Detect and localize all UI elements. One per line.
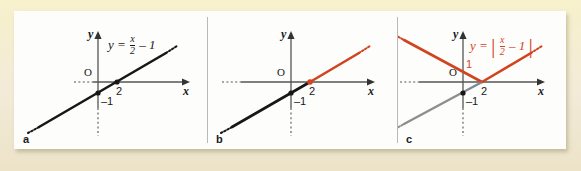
panel-a-graph [14,11,207,149]
point-x-intercept [307,79,313,85]
point-y-intercept-original [460,90,465,95]
line-segment-highlight [310,53,359,82]
point-label-x-intercept: 2 [116,85,122,97]
equation-lhs: y [470,38,476,53]
fraction-denominator: 2 [500,46,505,58]
panel-divider-1 [207,17,208,143]
point-label-y-intercept-original: –1 [466,95,478,107]
equation-lhs: y [108,37,114,52]
y-axis-arrowhead [287,31,294,39]
origin-label: O [449,66,457,78]
panel-a: y x O –1 2 y = x 2 – 1 a [14,11,207,149]
line-faded-dash-lower-left [397,124,404,129]
point-y-intercept [95,90,100,95]
point-x-intercept [114,79,119,84]
panel-b: y x O –1 2 b [207,11,397,149]
y-axis-label: y [453,27,458,42]
equation-tail: – 1 [139,37,155,52]
panel-c-graph [397,11,566,149]
panel-c-svg [397,11,566,149]
equation-tail: – 1 [509,38,525,53]
x-axis-label: x [368,84,374,99]
point-label-abs-y-intercept: 1 [466,58,472,70]
point-label-y-intercept: –1 [294,95,306,107]
fraction-denominator: 2 [130,45,135,57]
equation-equals: = [117,37,126,52]
panel-b-graph [207,11,397,149]
panel-b-svg [207,11,397,149]
line-dash-upper-right [359,46,370,53]
fraction-numerator: x [130,34,135,45]
equation-fraction: x 2 [130,34,135,56]
y-axis-arrowhead [459,31,466,39]
origin-label: O [84,66,92,78]
equation-fraction: x 2 [500,35,505,57]
line-dash-upper-right [166,46,177,53]
abs-left-branch-dash [397,35,404,40]
line-dash-lower-left [28,127,39,133]
figure-root: y x O –1 2 y = x 2 – 1 a [0,0,581,171]
figure-card: y x O –1 2 y = x 2 – 1 a [14,11,566,149]
line-y-equals-half-x-minus-1 [39,53,166,127]
point-label-x-intercept: 2 [309,85,315,97]
x-axis-label: x [538,84,544,99]
y-axis-arrowhead [94,31,101,39]
fraction-numerator: x [500,35,505,46]
point-label-vertex: 2 [481,85,487,97]
origin-label: O [277,66,285,78]
x-axis-label: x [183,84,189,99]
panel-label-b: b [216,133,223,145]
equation-equals: = [479,38,488,53]
abs-bar-close: | [528,39,532,52]
abs-bar-open: | [491,39,495,52]
panel-divider-2 [397,17,398,143]
y-axis-label: y [281,27,286,42]
point-y-intercept [288,90,293,95]
panel-label-c: c [406,133,412,145]
panel-label-a: a [23,133,29,145]
point-label-y-intercept: –1 [101,95,113,107]
panel-a-svg [14,11,207,149]
equation-panel-c: y = | x 2 – 1 | [470,36,533,58]
panel-c: y x O 1 2 –1 y = | x 2 – 1 | c [397,11,566,149]
y-axis-label: y [88,27,93,42]
equation-panel-a: y = x 2 – 1 [108,35,156,57]
